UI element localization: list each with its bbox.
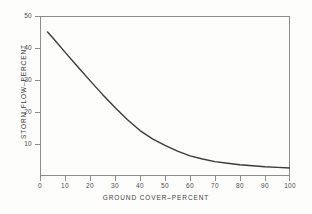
y-tick-label-50: 50 — [8, 12, 32, 19]
x-tick-mark-50 — [165, 176, 166, 181]
y-axis-title: STORM FLOW–PERCENT — [20, 22, 27, 162]
x-tick-mark-10 — [65, 176, 66, 181]
x-tick-mark-90 — [265, 176, 266, 181]
x-tick-label-20: 20 — [80, 182, 100, 189]
y-tick-mark-20 — [35, 112, 40, 113]
x-tick-label-10: 10 — [55, 182, 75, 189]
y-tick-mark-10 — [35, 144, 40, 145]
y-tick-mark-50 — [35, 16, 40, 17]
x-tick-mark-20 — [90, 176, 91, 181]
x-tick-label-0: 0 — [30, 182, 50, 189]
x-tick-label-50: 50 — [155, 182, 175, 189]
x-tick-label-100: 100 — [280, 182, 300, 189]
data-curve — [40, 16, 290, 176]
x-tick-mark-0 — [40, 176, 41, 181]
chart-page: 50 40 30 20 10 0 10 20 30 40 50 60 70 80… — [0, 0, 312, 214]
x-tick-label-40: 40 — [130, 182, 150, 189]
x-tick-mark-30 — [115, 176, 116, 181]
x-tick-label-70: 70 — [205, 182, 225, 189]
x-tick-mark-40 — [140, 176, 141, 181]
x-tick-mark-80 — [240, 176, 241, 181]
x-tick-label-90: 90 — [255, 182, 275, 189]
x-tick-mark-100 — [289, 176, 290, 181]
y-tick-mark-40 — [35, 48, 40, 49]
y-tick-mark-30 — [35, 80, 40, 81]
x-tick-label-30: 30 — [105, 182, 125, 189]
x-tick-label-80: 80 — [230, 182, 250, 189]
x-axis-title: GROUND COVER–PERCENT — [0, 194, 312, 201]
x-tick-label-60: 60 — [180, 182, 200, 189]
x-tick-mark-60 — [190, 176, 191, 181]
x-tick-mark-70 — [215, 176, 216, 181]
